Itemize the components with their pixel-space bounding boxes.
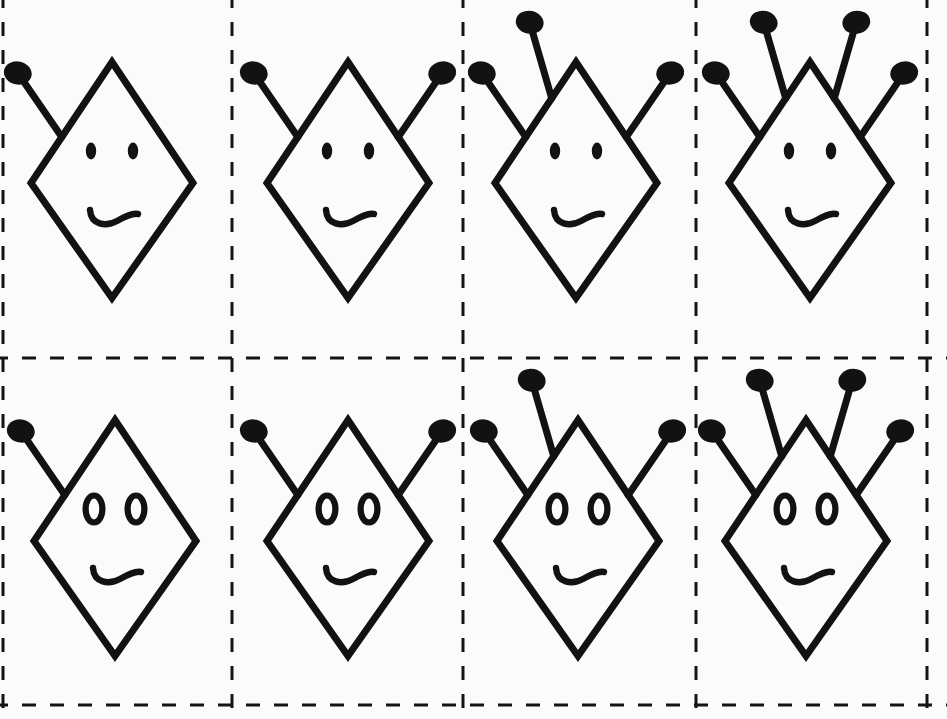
card-cell-r2c3[interactable] (463, 358, 696, 705)
card-cell-r1c1[interactable] (3, 0, 232, 358)
card-cell-r2c1[interactable] (3, 358, 232, 705)
card-cell-r1c3[interactable] (463, 0, 696, 358)
card-cell-r1c2[interactable] (232, 0, 463, 358)
card-cell-r1c4[interactable] (696, 0, 927, 358)
card-cell-r2c2[interactable] (232, 358, 463, 705)
card-cell-r2c4[interactable] (696, 358, 927, 705)
worksheet-canvas (0, 0, 947, 719)
